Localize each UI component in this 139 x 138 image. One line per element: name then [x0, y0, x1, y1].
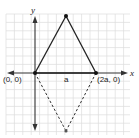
right-vertex-label: (2a, 0) — [97, 75, 120, 84]
x-axis-label: x — [129, 68, 134, 78]
y-axis-down-arrow-icon — [33, 124, 38, 131]
y-axis-up-arrow-icon — [33, 16, 38, 23]
base-midpoint-label: a — [64, 75, 69, 84]
y-axis-label: y — [30, 5, 35, 15]
x-axis-right-arrow-icon — [121, 71, 128, 76]
origin-label: (0, 0) — [3, 75, 22, 84]
vertex-bottom — [64, 129, 67, 132]
vertex-top — [64, 14, 68, 18]
coordinate-diagram: y x (0, 0) (2a, 0) a — [0, 0, 139, 138]
vertex-origin — [33, 71, 37, 75]
